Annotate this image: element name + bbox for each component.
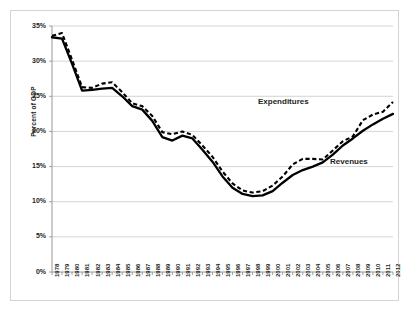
x-tick-label: 2006: [335, 264, 341, 277]
x-tick-label: 1999: [265, 264, 271, 277]
x-tick-label: 2000: [275, 264, 281, 277]
annotation-expenditures: Expenditures: [258, 97, 309, 106]
x-tick-label: 1980: [74, 264, 80, 277]
x-tick-label: 1990: [175, 264, 181, 277]
x-tick-marks: [52, 272, 393, 275]
x-tick-label: 2008: [355, 264, 361, 277]
series-line-expenditures: [52, 33, 393, 193]
axis-lines: [52, 26, 393, 272]
x-tick-label: 2002: [295, 264, 301, 277]
x-tick-label: 1995: [225, 264, 231, 277]
x-tick-label: 2007: [345, 264, 351, 277]
y-tick-label: 0%: [12, 268, 46, 275]
y-tick-label: 5%: [12, 232, 46, 239]
x-tick-label: 1997: [245, 264, 251, 277]
y-tick-label: 20%: [12, 127, 46, 134]
x-tick-label: 2011: [385, 264, 391, 277]
x-tick-label: 2001: [285, 264, 291, 277]
x-tick-label: 1978: [54, 264, 60, 277]
gridlines: [52, 26, 393, 237]
x-tick-label: 1983: [105, 264, 111, 277]
x-tick-label: 1991: [185, 264, 191, 277]
x-tick-label: 1988: [155, 264, 161, 277]
x-tick-label: 2012: [395, 264, 401, 277]
x-tick-label: 1987: [145, 264, 151, 277]
y-tick-label: 15%: [12, 162, 46, 169]
x-tick-label: 1986: [135, 264, 141, 277]
y-tick-label: 25%: [12, 92, 46, 99]
x-tick-label: 1984: [115, 264, 121, 277]
x-tick-label: 1981: [84, 264, 90, 277]
x-tick-label: 2003: [305, 264, 311, 277]
x-tick-label: 2005: [325, 264, 331, 277]
annotation-revenues: Revenues: [330, 157, 368, 166]
x-tick-label: 1989: [165, 264, 171, 277]
x-tick-label: 1985: [125, 264, 131, 277]
x-tick-label: 2004: [315, 264, 321, 277]
x-tick-label: 1982: [95, 264, 101, 277]
x-tick-label: 1998: [255, 264, 261, 277]
chart-page: Percent of GDP 0%5%10%15%20%25%30%35% 19…: [0, 0, 409, 311]
x-tick-label: 2010: [375, 264, 381, 277]
x-tick-label: 1996: [235, 264, 241, 277]
x-tick-label: 1992: [195, 264, 201, 277]
x-tick-label: 1979: [64, 264, 70, 277]
y-tick-label: 30%: [12, 57, 46, 64]
x-tick-label: 1994: [215, 264, 221, 277]
y-axis-title: Percent of GDP: [30, 67, 37, 157]
x-tick-label: 1993: [205, 264, 211, 277]
x-tick-label: 2009: [365, 264, 371, 277]
y-tick-label: 35%: [12, 22, 46, 29]
y-tick-label: 10%: [12, 197, 46, 204]
